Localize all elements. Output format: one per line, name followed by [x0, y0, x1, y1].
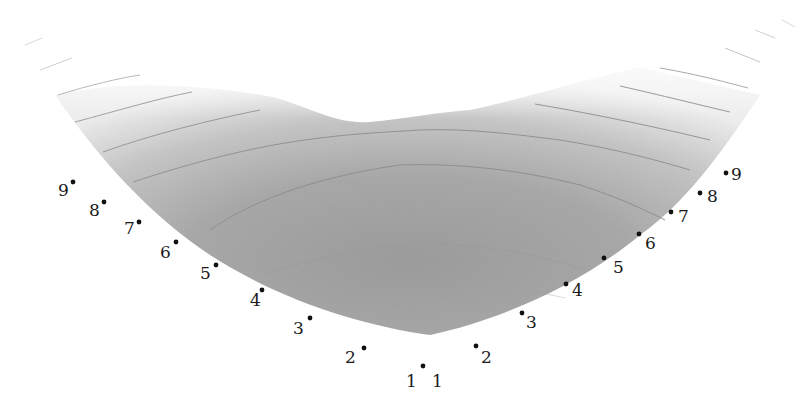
left-point-7: 7: [124, 218, 141, 238]
point-dot: [137, 220, 142, 225]
point-dot: [174, 240, 179, 245]
point-label: 6: [160, 242, 171, 262]
right-point-4: 4: [564, 280, 583, 300]
point-label: 4: [572, 280, 583, 300]
point-label: 2: [481, 347, 492, 367]
point-dot: [724, 171, 729, 176]
point-label: 9: [58, 180, 69, 200]
point-dot: [602, 256, 607, 261]
point-dot: [214, 263, 219, 268]
point-label: 8: [707, 186, 718, 206]
point-dot: [669, 210, 674, 215]
right-point-5: 5: [602, 256, 624, 277]
point-dot: [520, 311, 525, 316]
left-point-3: 3: [293, 316, 312, 338]
point-label: 5: [200, 263, 211, 283]
point-label: 1: [406, 371, 417, 391]
left-point-2: 2: [345, 346, 366, 367]
point-label: 8: [89, 200, 100, 220]
point-dot: [698, 191, 703, 196]
left-point-8: 8: [89, 200, 106, 220]
right-point-7: 7: [669, 206, 689, 226]
point-dot: [564, 282, 569, 287]
point-dot: [362, 346, 367, 351]
point-label: 7: [678, 206, 689, 226]
right-point-9: 9: [724, 164, 742, 184]
right-point-6: 6: [637, 232, 656, 253]
right-point-3: 3: [520, 311, 537, 332]
right-point-1: 1: [432, 371, 443, 391]
contour-surface-diagram: 9 8 7 6 5 4 3 2 1 1 2 3 4 5 6 7 8 9: [0, 0, 800, 411]
point-dot: [421, 364, 426, 369]
point-dot: [474, 344, 479, 349]
point-label: 6: [645, 233, 656, 253]
left-point-6: 6: [160, 240, 178, 262]
left-point-1: 1: [406, 364, 425, 391]
point-dot: [308, 316, 313, 321]
point-label: 3: [293, 318, 304, 338]
left-point-5: 5: [200, 263, 218, 283]
right-point-8: 8: [698, 186, 718, 206]
point-label: 3: [526, 312, 537, 332]
point-label: 2: [345, 347, 356, 367]
point-label: 9: [731, 164, 742, 184]
left-point-4: 4: [250, 288, 264, 310]
right-point-2: 2: [474, 344, 492, 367]
point-dot: [71, 180, 76, 185]
point-label: 1: [432, 371, 443, 391]
left-point-9: 9: [58, 180, 75, 200]
point-label: 5: [613, 257, 624, 277]
point-dot: [102, 200, 107, 205]
point-label: 7: [124, 218, 135, 238]
point-label: 4: [250, 290, 261, 310]
point-dot: [637, 232, 642, 237]
